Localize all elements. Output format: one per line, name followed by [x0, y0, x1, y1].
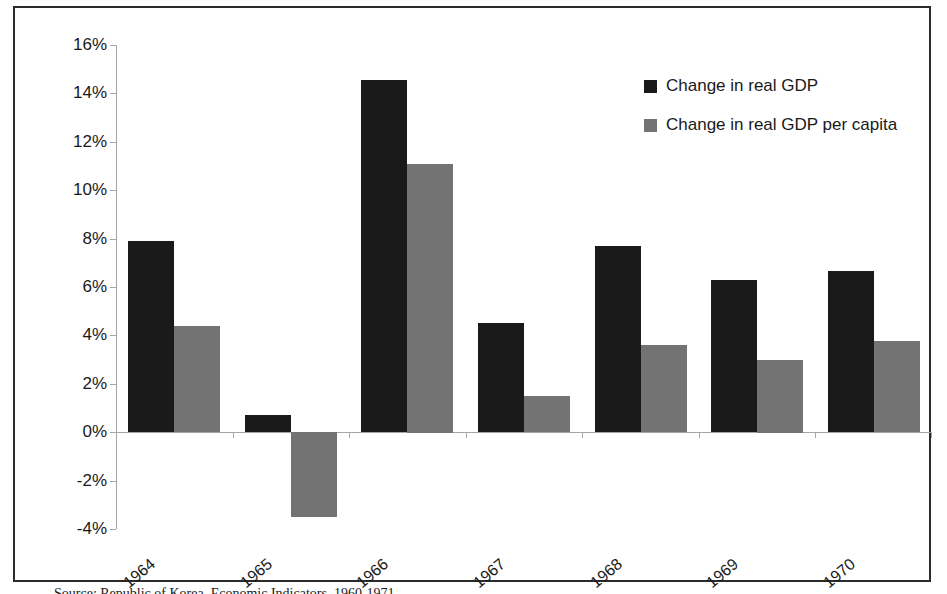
bar-1964-series-2: [174, 326, 220, 432]
bar-1969-series-1: [711, 280, 757, 432]
x-axis-tick: [931, 432, 932, 438]
legend-label-series-2: Change in real GDP per capita: [666, 115, 897, 135]
y-axis-tick-label: -4%: [77, 520, 107, 537]
x-axis-label-1968: 1968: [587, 556, 625, 591]
x-axis-tick: [815, 432, 816, 438]
y-axis-tick: [110, 384, 116, 385]
bar-1967-series-2: [524, 396, 570, 432]
chart-legend: Change in real GDP Change in real GDP pe…: [644, 76, 897, 154]
legend-label-series-1: Change in real GDP: [666, 76, 818, 96]
y-axis-line: [116, 45, 117, 529]
y-axis-tick: [110, 142, 116, 143]
bar-1968-series-2: [641, 345, 687, 432]
y-axis-tick: [110, 287, 116, 288]
y-axis-tick-label: 10%: [73, 181, 107, 198]
y-axis-tick-label: 4%: [82, 326, 107, 343]
chart-frame: 16%14%12%10%8%6%4%2%0%-2%-4% 19641965196…: [13, 6, 931, 582]
figure-caption: Source: Republic of Korea, Economic Indi…: [54, 586, 395, 594]
x-axis-tick: [699, 432, 700, 438]
bar-1965-series-2: [291, 432, 337, 517]
y-axis-tick-label: 0%: [82, 423, 107, 440]
x-axis-tick: [233, 432, 234, 438]
y-axis-tick-label: 8%: [82, 230, 107, 247]
y-axis-tick: [110, 529, 116, 530]
y-axis-tick: [110, 93, 116, 94]
legend-swatch-series-1-icon: [644, 80, 657, 93]
y-axis-tick-label: 12%: [73, 133, 107, 150]
y-axis-tick-label: 2%: [82, 375, 107, 392]
bar-1968-series-1: [595, 246, 641, 432]
y-axis-tick-label: 14%: [73, 84, 107, 101]
x-axis-tick: [116, 432, 117, 438]
x-axis-label-1967: 1967: [471, 556, 509, 591]
y-axis-tick: [110, 239, 116, 240]
x-axis-label-1969: 1969: [704, 556, 742, 591]
bar-1966-series-2: [407, 164, 453, 433]
y-axis-tick-label: 6%: [82, 278, 107, 295]
y-axis-labels: 16%14%12%10%8%6%4%2%0%-2%-4%: [45, 45, 107, 529]
x-axis-label-1970: 1970: [820, 556, 858, 591]
bar-1970-series-1: [828, 271, 874, 432]
bar-1964-series-1: [128, 241, 174, 432]
legend-item-1: Change in real GDP per capita: [644, 115, 897, 135]
y-axis-tick: [110, 481, 116, 482]
y-axis-tick: [110, 45, 116, 46]
bar-1967-series-1: [478, 323, 524, 432]
chart-page: 16%14%12%10%8%6%4%2%0%-2%-4% 19641965196…: [0, 0, 947, 594]
y-axis-tick-label: 16%: [73, 36, 107, 53]
x-axis-tick: [582, 432, 583, 438]
legend-swatch-series-2-icon: [644, 119, 657, 132]
bar-1969-series-2: [757, 360, 803, 433]
bar-1965-series-1: [245, 415, 291, 432]
bar-1970-series-2: [874, 341, 920, 432]
bar-1966-series-1: [361, 80, 407, 432]
zero-baseline: [116, 432, 932, 433]
x-axis-tick: [466, 432, 467, 438]
legend-item-0: Change in real GDP: [644, 76, 897, 96]
y-axis-tick-label: -2%: [77, 472, 107, 489]
x-axis-tick: [349, 432, 350, 438]
y-axis-tick: [110, 335, 116, 336]
y-axis-tick: [110, 190, 116, 191]
